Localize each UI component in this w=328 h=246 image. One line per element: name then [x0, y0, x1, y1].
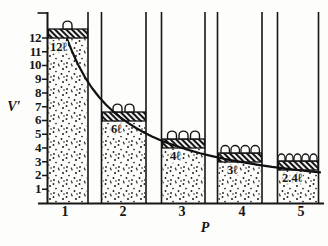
- weight-icon: [63, 21, 72, 29]
- weight-icon: [221, 146, 229, 153]
- y-tick-label: 6: [12, 113, 41, 127]
- x-tick-label: 5: [286, 205, 316, 219]
- weight-icon: [241, 146, 249, 153]
- y-tick-label: 10: [12, 58, 41, 72]
- weight-icon: [231, 146, 239, 153]
- volume-label: 3ℓ: [226, 164, 239, 177]
- piston: [49, 29, 88, 38]
- y-tick-label: 4: [12, 141, 41, 155]
- y-tick-label: 8: [12, 86, 41, 100]
- y-tick-label: 9: [12, 72, 41, 86]
- x-tick-label: 4: [227, 205, 257, 219]
- y-tick-label: 1: [12, 182, 41, 196]
- boyles-law-figure: 12 11 10 9 8 7 6 5 4 3 2 1 V′ P 1 2 3 4 …: [0, 0, 328, 246]
- gas-region: [103, 121, 146, 203]
- cylinder-3: [162, 12, 206, 204]
- gas-region: [219, 162, 262, 203]
- y-axis-title: V′: [3, 99, 25, 115]
- volume-label: 2.4ℓ: [281, 172, 303, 185]
- y-tick-label: 2: [12, 168, 41, 182]
- weight-icon: [278, 154, 285, 161]
- cylinder-4: [218, 12, 263, 204]
- weight-icon: [191, 131, 200, 139]
- weight-icon: [302, 154, 309, 161]
- weight-icon: [179, 131, 188, 139]
- piston: [219, 153, 262, 162]
- gas-region: [49, 38, 88, 203]
- y-tick-label: 12: [12, 31, 41, 45]
- volume-label: 12ℓ: [49, 41, 68, 54]
- weight-icon: [125, 104, 134, 112]
- volume-label: 6ℓ: [110, 123, 123, 136]
- weight-icon: [168, 131, 177, 139]
- weight-icon: [251, 146, 259, 153]
- weight-icon: [310, 154, 317, 161]
- x-tick-label: 1: [50, 205, 80, 219]
- y-tick-label: 5: [12, 127, 41, 141]
- volume-label: 4ℓ: [169, 150, 182, 163]
- x-tick-label: 3: [167, 205, 197, 219]
- weight-icon: [113, 104, 122, 112]
- x-tick-label: 2: [108, 205, 138, 219]
- weight-icon: [286, 154, 293, 161]
- x-axis-title: P: [190, 220, 220, 236]
- weight-icon: [294, 154, 301, 161]
